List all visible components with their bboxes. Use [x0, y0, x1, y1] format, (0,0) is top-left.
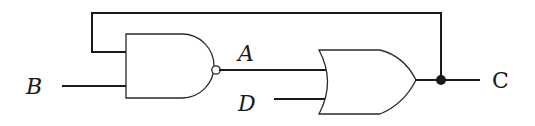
junction-dot	[436, 75, 446, 85]
logic-circuit-diagram: B A D C	[0, 0, 535, 126]
nand-gate	[126, 34, 214, 98]
label-c: C	[492, 68, 509, 93]
nand-inversion-bubble	[212, 66, 220, 74]
label-d: D	[237, 91, 256, 116]
or-gate	[319, 50, 416, 114]
label-a: A	[236, 41, 254, 66]
label-b: B	[25, 74, 42, 99]
